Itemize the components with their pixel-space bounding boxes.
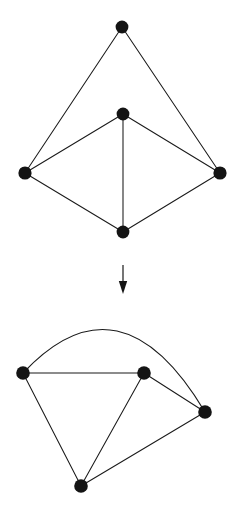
result-graph-vertex-bottom (74, 479, 88, 493)
figure-background (0, 0, 238, 513)
source-graph-vertex-bottom (117, 226, 130, 239)
result-graph-vertex-left (16, 366, 30, 380)
result-graph-vertex-right (198, 405, 212, 419)
figure-canvas (0, 0, 238, 513)
graph-transformation-figure (0, 0, 238, 513)
source-graph-vertex-apex (116, 21, 129, 34)
source-graph-vertex-left (18, 166, 31, 179)
source-graph-vertex-right (213, 166, 226, 179)
source-graph-vertex-center (117, 108, 130, 121)
result-graph-vertex-middle (137, 366, 151, 380)
